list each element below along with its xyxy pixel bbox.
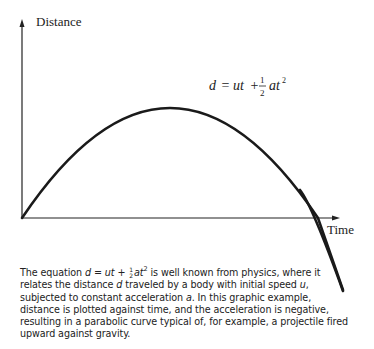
equation-annotation: d = ut + 1 2 at 2 xyxy=(209,75,286,98)
caption-plus: + xyxy=(114,267,128,278)
caption-fraction-den: 2 xyxy=(129,273,133,279)
caption-equals: = xyxy=(91,267,105,278)
y-axis-arrow-icon xyxy=(20,19,25,27)
caption-text: The equation d = ut + 12at2 is well know… xyxy=(20,267,350,341)
x-axis-arrow-icon xyxy=(332,216,340,221)
eq-ut: ut xyxy=(233,78,245,93)
caption-part: The equation xyxy=(20,267,85,278)
eq-exponent: 2 xyxy=(282,76,286,85)
caption-part: traveled by a body with initial speed xyxy=(122,279,299,290)
caption-fraction: 12 xyxy=(129,267,133,279)
caption-at: at xyxy=(134,267,143,278)
parabola-curve xyxy=(22,108,343,290)
x-axis-label: Time xyxy=(327,222,354,237)
eq-d: d xyxy=(209,78,217,93)
eq-denominator: 2 xyxy=(260,88,265,98)
eq-equals: = xyxy=(218,78,233,93)
y-axis-label: Distance xyxy=(36,14,82,29)
eq-at: at xyxy=(269,78,281,93)
eq-numerator: 1 xyxy=(260,75,265,85)
